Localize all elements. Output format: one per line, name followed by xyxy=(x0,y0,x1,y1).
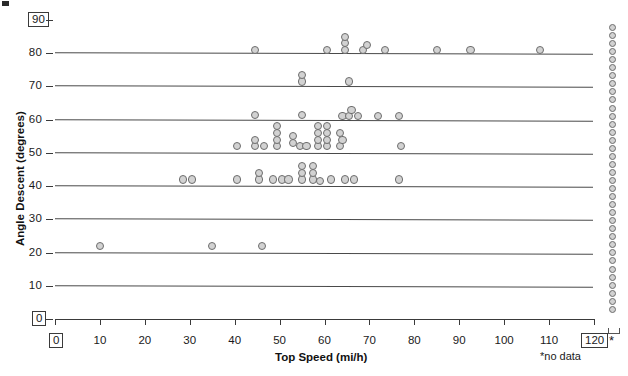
y-tick-dash-80 xyxy=(46,53,53,54)
no-data-point xyxy=(609,249,616,256)
x-tick-label-30: 30 xyxy=(175,334,205,346)
data-point xyxy=(323,129,331,137)
x-tick-40 xyxy=(235,319,236,325)
no-data-point xyxy=(609,48,616,55)
y-tick-label-10: 10 xyxy=(8,279,42,291)
x-tick-label-10: 10 xyxy=(85,334,115,346)
data-point xyxy=(251,46,259,54)
x-tick-label-60: 60 xyxy=(310,334,340,346)
y-tick-dash-50 xyxy=(46,153,53,154)
data-point xyxy=(433,46,441,54)
data-point xyxy=(251,111,259,119)
data-point xyxy=(233,142,241,150)
no-data-point xyxy=(609,137,616,144)
no-data-point xyxy=(609,233,616,240)
x-tick-80 xyxy=(414,319,415,325)
x-tick-box-0: 0 xyxy=(49,333,63,348)
no-data-point xyxy=(609,185,616,192)
x-tick-20 xyxy=(145,319,146,325)
x-tick-50 xyxy=(280,319,281,325)
y-tick-dash-0 xyxy=(46,319,53,320)
data-point xyxy=(345,77,353,85)
no-data-point xyxy=(609,217,616,224)
data-point xyxy=(302,142,310,150)
no-data-point xyxy=(609,177,616,184)
y-tick-label-70: 70 xyxy=(8,79,42,91)
chart-screenshot: Angle Descent (degrees) Top Speed (mi/h)… xyxy=(0,0,628,376)
no-data-point xyxy=(609,241,616,248)
x-tick-label-100: 100 xyxy=(489,334,519,346)
no-data-point xyxy=(609,161,616,168)
x-tick-120 xyxy=(594,319,595,325)
no-data-point xyxy=(609,145,616,152)
no-data-point xyxy=(609,257,616,264)
no-data-point xyxy=(609,201,616,208)
data-point xyxy=(314,129,322,137)
y-tick-dash-90 xyxy=(46,20,53,21)
corner-mark xyxy=(2,1,9,6)
no-data-point xyxy=(609,298,616,305)
y-tick-dash-60 xyxy=(46,120,53,121)
data-point xyxy=(316,177,324,185)
no-data-note: *no data xyxy=(540,350,581,362)
gridline-50 xyxy=(55,152,593,155)
x-tick-90 xyxy=(459,319,460,325)
y-tick-label-80: 80 xyxy=(8,46,42,58)
x-tick-label-70: 70 xyxy=(354,334,384,346)
y-tick-label-40: 40 xyxy=(8,179,42,191)
y-tick-label-50: 50 xyxy=(8,146,42,158)
no-data-point xyxy=(609,282,616,289)
no-data-asterisk: * xyxy=(609,333,614,348)
data-point xyxy=(289,132,297,140)
data-point xyxy=(341,175,349,183)
no-data-point xyxy=(609,64,616,71)
x-tick-100 xyxy=(504,319,505,325)
data-point xyxy=(397,142,405,150)
data-point xyxy=(298,162,306,170)
y-tick-dash-30 xyxy=(46,219,53,220)
no-data-point xyxy=(609,40,616,47)
data-point xyxy=(466,46,474,54)
no-data-point xyxy=(609,225,616,232)
y-tick-box-0: 0 xyxy=(32,311,46,326)
data-point xyxy=(260,142,268,150)
y-tick-label-30: 30 xyxy=(8,212,42,224)
data-point xyxy=(298,71,306,79)
data-point xyxy=(233,175,241,183)
data-point xyxy=(208,242,216,250)
y-tick-dash-10 xyxy=(46,286,53,287)
data-point xyxy=(363,41,371,49)
x-tick-label-50: 50 xyxy=(265,334,295,346)
y-tick-dash-40 xyxy=(46,186,53,187)
no-data-point xyxy=(609,266,616,273)
no-data-point xyxy=(609,80,616,87)
no-data-point xyxy=(609,105,616,112)
data-point xyxy=(251,136,259,144)
x-tick-label-80: 80 xyxy=(399,334,429,346)
no-data-point xyxy=(609,32,616,39)
x-tick-0 xyxy=(55,319,56,325)
data-point xyxy=(309,162,317,170)
no-data-point xyxy=(609,153,616,160)
no-data-point xyxy=(609,96,616,103)
gridline-10 xyxy=(55,285,593,288)
data-point xyxy=(96,242,104,250)
x-tick-110 xyxy=(549,319,550,325)
data-point xyxy=(395,175,403,183)
y-tick-label-20: 20 xyxy=(8,246,42,258)
no-data-point xyxy=(609,88,616,95)
data-point xyxy=(341,33,349,41)
no-data-point xyxy=(609,56,616,63)
data-point xyxy=(273,122,281,130)
data-point xyxy=(327,175,335,183)
x-tick-70 xyxy=(369,319,370,325)
no-data-point xyxy=(609,193,616,200)
no-data-point xyxy=(609,274,616,281)
gridline-60 xyxy=(55,119,593,122)
plot-area xyxy=(53,8,596,326)
no-data-point xyxy=(609,72,616,79)
gridline-40 xyxy=(55,185,593,188)
gridline-20 xyxy=(55,252,593,255)
no-data-point xyxy=(609,121,616,128)
y-tick-label-60: 60 xyxy=(8,113,42,125)
